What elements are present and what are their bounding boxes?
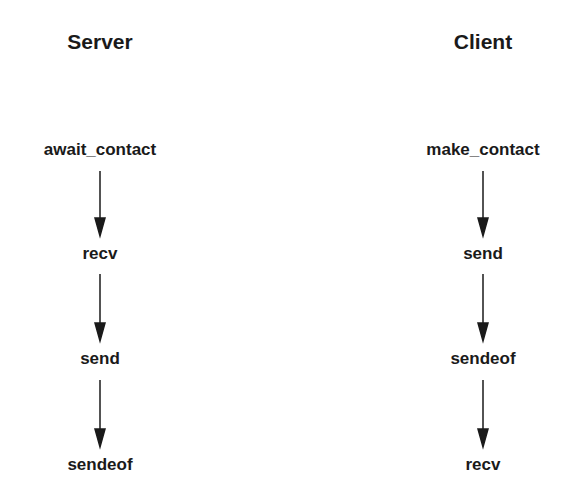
flow-arrows: [0, 0, 581, 497]
